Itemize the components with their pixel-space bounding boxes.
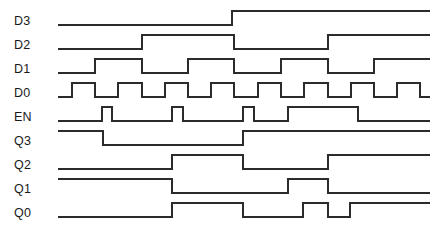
waveform-q0 — [58, 203, 430, 217]
signal-label-q0: Q0 — [14, 207, 31, 220]
signal-label-d3: D3 — [14, 15, 30, 28]
waveform-q3 — [58, 131, 430, 145]
signal-label-d2: D2 — [14, 39, 30, 52]
signal-label-q1: Q1 — [14, 183, 31, 196]
waveform-en — [58, 107, 430, 121]
signal-label-d1: D1 — [14, 63, 30, 76]
timing-diagram: D3D2D1D0ENQ3Q2Q1Q0 — [0, 0, 444, 236]
waveform-d3 — [58, 11, 430, 25]
waveform-d1 — [58, 59, 430, 73]
waveform-d2 — [58, 35, 430, 49]
waveform-q2 — [58, 155, 430, 169]
signal-label-en: EN — [14, 111, 32, 124]
signal-label-q3: Q3 — [14, 135, 31, 148]
signal-label-d0: D0 — [14, 87, 30, 100]
waveform-d0 — [58, 83, 430, 97]
waveform-q1 — [58, 179, 430, 193]
signal-label-q2: Q2 — [14, 159, 31, 172]
waveform-canvas — [0, 0, 444, 236]
